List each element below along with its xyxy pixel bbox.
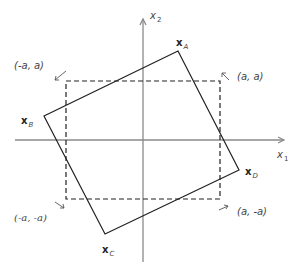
vertex-label-b: xB xyxy=(21,115,33,126)
corner-label-bottom-right: (a, -a) xyxy=(237,206,267,217)
vertex-label-a: xA xyxy=(176,37,188,48)
axes xyxy=(15,19,284,262)
arrow-bottom-left-icon xyxy=(55,202,64,208)
rotated-square xyxy=(44,51,239,234)
arrow-bottom-right-icon xyxy=(219,205,228,210)
vertex-label-c: xC xyxy=(102,244,114,255)
x-axis-label: x1 xyxy=(277,149,288,160)
corner-label-top-left: (-a, a) xyxy=(14,60,44,71)
arrow-top-left-icon xyxy=(55,71,66,80)
vertex-label-d: xD xyxy=(245,166,258,177)
corner-label-top-right: (a, a) xyxy=(237,71,263,82)
y-axis-label: x2 xyxy=(150,10,161,21)
arrow-top-right-icon xyxy=(222,73,229,80)
corner-label-bottom-left: (-a, -a) xyxy=(14,212,47,223)
diagram-canvas xyxy=(0,0,300,273)
